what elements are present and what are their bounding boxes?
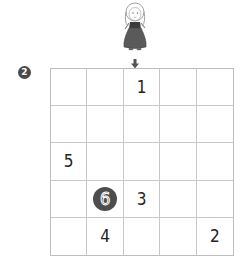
grid-cell[interactable] bbox=[160, 106, 196, 143]
grid-cell[interactable] bbox=[160, 69, 196, 106]
arrow-down-icon bbox=[131, 54, 139, 64]
girl-character-illustration bbox=[118, 2, 152, 54]
grid-cell[interactable] bbox=[160, 218, 196, 255]
grid-cell[interactable]: 1 bbox=[124, 69, 160, 106]
grid-cell[interactable] bbox=[124, 143, 160, 180]
highlighted-number-circle: 6 bbox=[93, 187, 117, 211]
grid-cell[interactable] bbox=[160, 143, 196, 180]
grid-cell[interactable] bbox=[197, 106, 233, 143]
grid-cell[interactable] bbox=[51, 69, 87, 106]
grid-cell[interactable] bbox=[87, 106, 123, 143]
grid-cell[interactable] bbox=[197, 181, 233, 218]
grid-cell[interactable] bbox=[87, 143, 123, 180]
grid-cell[interactable] bbox=[124, 106, 160, 143]
grid-cell[interactable] bbox=[51, 106, 87, 143]
grid-cell[interactable] bbox=[124, 218, 160, 255]
grid-cell[interactable] bbox=[197, 143, 233, 180]
grid-cell[interactable]: 4 bbox=[87, 218, 123, 255]
grid-cell[interactable] bbox=[87, 69, 123, 106]
grid-cell[interactable]: 5 bbox=[51, 143, 87, 180]
puzzle-number-badge: 2 bbox=[18, 66, 31, 79]
grid-cell[interactable] bbox=[51, 218, 87, 255]
puzzle-grid: 1 5 6 3 4 2 bbox=[50, 68, 234, 256]
grid-cell[interactable] bbox=[197, 69, 233, 106]
grid-cell[interactable] bbox=[51, 181, 87, 218]
grid-cell[interactable] bbox=[160, 181, 196, 218]
grid-cell[interactable]: 3 bbox=[124, 181, 160, 218]
grid-cell-highlighted[interactable]: 6 bbox=[87, 181, 123, 218]
grid-cell[interactable]: 2 bbox=[197, 218, 233, 255]
